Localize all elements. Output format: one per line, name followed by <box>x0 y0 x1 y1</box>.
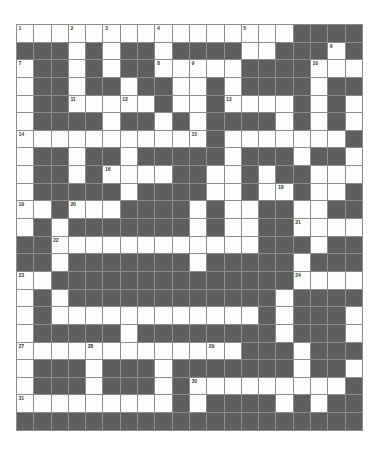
crossword-cell-entry[interactable] <box>345 271 362 289</box>
crossword-cell-entry[interactable]: 21 <box>293 219 310 237</box>
crossword-cell-entry[interactable] <box>207 377 224 395</box>
crossword-cell-entry[interactable] <box>207 307 224 325</box>
crossword-cell-entry[interactable] <box>17 307 34 325</box>
crossword-cell-entry[interactable] <box>138 236 155 254</box>
crossword-cell-entry[interactable] <box>120 148 137 166</box>
crossword-cell-entry[interactable] <box>189 254 206 272</box>
crossword-cell-entry[interactable] <box>189 95 206 113</box>
crossword-cell-entry[interactable] <box>241 201 258 219</box>
crossword-cell-entry[interactable] <box>120 166 137 184</box>
crossword-cell-entry[interactable] <box>276 324 293 342</box>
crossword-cell-entry[interactable] <box>224 219 241 237</box>
crossword-cell-entry[interactable]: 30 <box>189 377 206 395</box>
crossword-cell-entry[interactable] <box>224 25 241 43</box>
crossword-cell-entry[interactable] <box>328 166 345 184</box>
crossword-cell-entry[interactable] <box>189 307 206 325</box>
crossword-cell-entry[interactable] <box>120 342 137 360</box>
crossword-cell-entry[interactable]: 18 <box>276 183 293 201</box>
crossword-cell-entry[interactable] <box>138 130 155 148</box>
crossword-cell-entry[interactable] <box>103 60 120 78</box>
crossword-cell-entry[interactable] <box>224 60 241 78</box>
crossword-cell-entry[interactable] <box>51 130 68 148</box>
crossword-cell-entry[interactable] <box>293 130 310 148</box>
crossword-cell-entry[interactable]: 3 <box>103 25 120 43</box>
crossword-cell-entry[interactable] <box>155 130 172 148</box>
crossword-cell-entry[interactable] <box>345 324 362 342</box>
crossword-cell-entry[interactable] <box>259 25 276 43</box>
crossword-cell-entry[interactable] <box>103 113 120 131</box>
crossword-cell-entry[interactable] <box>224 236 241 254</box>
crossword-cell-entry[interactable] <box>241 95 258 113</box>
crossword-cell-entry[interactable] <box>17 113 34 131</box>
crossword-cell-entry[interactable] <box>17 166 34 184</box>
crossword-cell-entry[interactable] <box>224 77 241 95</box>
crossword-cell-entry[interactable] <box>172 130 189 148</box>
crossword-cell-entry[interactable] <box>103 395 120 413</box>
crossword-cell-entry[interactable] <box>68 166 85 184</box>
crossword-cell-entry[interactable] <box>328 183 345 201</box>
crossword-cell-entry[interactable] <box>224 148 241 166</box>
crossword-cell-entry[interactable] <box>224 307 241 325</box>
crossword-cell-entry[interactable]: 12 <box>120 95 137 113</box>
crossword-cell-entry[interactable] <box>241 42 258 60</box>
crossword-cell-entry[interactable] <box>51 25 68 43</box>
crossword-cell-entry[interactable] <box>103 95 120 113</box>
crossword-cell-entry[interactable] <box>311 201 328 219</box>
crossword-cell-entry[interactable] <box>207 166 224 184</box>
crossword-cell-entry[interactable] <box>138 166 155 184</box>
crossword-cell-entry[interactable] <box>172 25 189 43</box>
crossword-cell-entry[interactable] <box>293 254 310 272</box>
crossword-cell-entry[interactable] <box>17 148 34 166</box>
crossword-cell-entry[interactable] <box>241 236 258 254</box>
crossword-cell-entry[interactable] <box>17 219 34 237</box>
crossword-cell-entry[interactable] <box>86 95 103 113</box>
crossword-cell-entry[interactable] <box>328 377 345 395</box>
crossword-cell-entry[interactable] <box>68 395 85 413</box>
crossword-cell-entry[interactable] <box>276 113 293 131</box>
crossword-cell-entry[interactable] <box>172 236 189 254</box>
crossword-cell-entry[interactable] <box>172 95 189 113</box>
crossword-cell-entry[interactable] <box>259 166 276 184</box>
crossword-cell-entry[interactable]: 16 <box>103 166 120 184</box>
crossword-cell-entry[interactable] <box>189 342 206 360</box>
crossword-cell-entry[interactable] <box>345 360 362 378</box>
crossword-cell-entry[interactable] <box>120 395 137 413</box>
crossword-cell-entry[interactable] <box>311 395 328 413</box>
crossword-cell-entry[interactable]: 19 <box>17 201 34 219</box>
crossword-cell-entry[interactable] <box>189 201 206 219</box>
crossword-cell-entry[interactable] <box>328 60 345 78</box>
crossword-cell-entry[interactable] <box>259 377 276 395</box>
crossword-cell-entry[interactable] <box>311 77 328 95</box>
crossword-cell-entry[interactable]: 13 <box>224 95 241 113</box>
crossword-cell-entry[interactable]: 22 <box>51 236 68 254</box>
crossword-cell-entry[interactable] <box>276 25 293 43</box>
crossword-cell-entry[interactable] <box>224 166 241 184</box>
crossword-cell-entry[interactable] <box>51 219 68 237</box>
crossword-cell-entry[interactable] <box>189 395 206 413</box>
crossword-cell-entry[interactable] <box>120 183 137 201</box>
crossword-cell-entry[interactable] <box>155 307 172 325</box>
crossword-grid[interactable]: 1234567891011121314151618192021222324272… <box>16 24 363 431</box>
crossword-cell-entry[interactable] <box>311 166 328 184</box>
crossword-cell-entry[interactable] <box>120 130 137 148</box>
crossword-cell-entry[interactable] <box>155 42 172 60</box>
crossword-cell-entry[interactable]: 29 <box>207 342 224 360</box>
crossword-cell-entry[interactable] <box>311 377 328 395</box>
crossword-cell-entry[interactable] <box>34 395 51 413</box>
crossword-cell-entry[interactable] <box>103 236 120 254</box>
crossword-cell-entry[interactable] <box>51 395 68 413</box>
crossword-cell-entry[interactable] <box>138 342 155 360</box>
crossword-cell-entry[interactable] <box>68 130 85 148</box>
crossword-cell-entry[interactable]: 31 <box>17 395 34 413</box>
crossword-cell-entry[interactable]: 1 <box>17 25 34 43</box>
crossword-cell-entry[interactable]: 6 <box>328 42 345 60</box>
crossword-cell-entry[interactable] <box>293 201 310 219</box>
crossword-cell-entry[interactable]: 14 <box>17 130 34 148</box>
crossword-cell-entry[interactable]: 28 <box>86 342 103 360</box>
crossword-cell-entry[interactable] <box>276 289 293 307</box>
crossword-cell-entry[interactable] <box>68 342 85 360</box>
crossword-cell-entry[interactable] <box>155 360 172 378</box>
crossword-cell-entry[interactable] <box>293 360 310 378</box>
crossword-cell-entry[interactable] <box>259 130 276 148</box>
crossword-cell-entry[interactable] <box>155 166 172 184</box>
